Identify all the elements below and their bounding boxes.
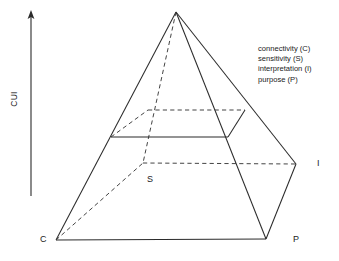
legend-item-connectivity: connectivity (C)	[258, 44, 312, 54]
legend-list: connectivity (C) sensitivity (S) interpr…	[258, 44, 312, 85]
legend-item-purpose: purpose (P)	[258, 75, 312, 85]
cross-section-left-edge-hidden	[111, 110, 148, 137]
legend-item-interpretation: interpretation (I)	[258, 64, 312, 74]
edge-apex-to-p	[176, 12, 266, 239]
cui-axis-label: CUI	[9, 79, 19, 119]
cross-section-hidden	[111, 110, 245, 137]
edge-base-c-to-p	[56, 239, 266, 240]
vertex-label-s: S	[147, 175, 153, 184]
cui-axis-group	[28, 10, 35, 196]
legend-item-sensitivity: sensitivity (S)	[258, 54, 312, 64]
figure-container: CUI connectivity (C) sensitivity (S) int…	[0, 0, 339, 261]
cross-section-right-edge	[228, 110, 245, 137]
edge-apex-to-i	[176, 12, 296, 164]
edge-apex-to-c	[56, 12, 176, 240]
vertex-label-i: I	[317, 159, 320, 168]
cross-section-front	[111, 110, 245, 137]
edge-apex-to-s-hidden	[143, 12, 176, 163]
vertex-label-p: P	[293, 235, 299, 244]
edge-base-c-to-s-hidden	[56, 163, 143, 240]
vertex-label-c: C	[40, 235, 47, 244]
edge-base-p-to-i	[266, 164, 296, 239]
edge-base-s-to-i-hidden	[143, 163, 296, 164]
pyramid-diagram	[0, 0, 339, 261]
